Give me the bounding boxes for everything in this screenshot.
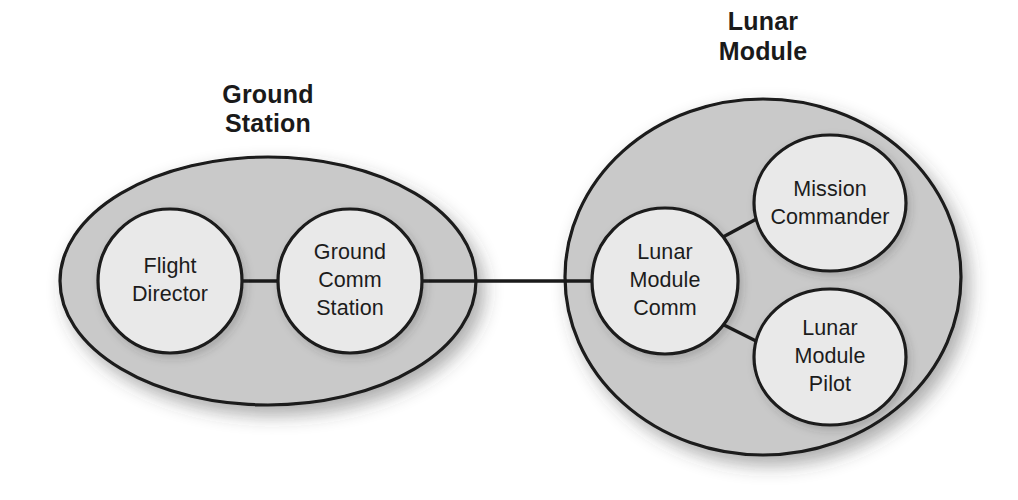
node-label-lunar-module-pilot-line2: Module — [794, 344, 865, 368]
group-title-ground-station-line2: Station — [225, 109, 311, 137]
node-label-lunar-module-comm-line1: Lunar — [637, 240, 693, 264]
group-title-ground-station: Ground Station — [222, 80, 313, 137]
node-label-ground-comm-station-line1: Ground — [314, 240, 386, 264]
node-label-mission-commander-line2: Commander — [770, 205, 889, 229]
node-label-lunar-module-comm-line3: Comm — [633, 296, 697, 320]
node-lunar-module-comm[interactable]: Lunar Module Comm — [592, 208, 738, 354]
node-label-ground-comm-station-line2: Comm — [318, 268, 382, 292]
group-title-ground-station-line1: Ground — [222, 80, 313, 108]
node-circle-mission-commander[interactable] — [754, 135, 906, 271]
diagram-canvas: Flight Director Ground Comm Station Luna… — [0, 0, 1018, 500]
node-label-mission-commander-line1: Mission — [793, 177, 867, 201]
group-title-lunar-module: Lunar Module — [719, 7, 808, 65]
node-flight-director[interactable]: Flight Director — [98, 209, 242, 353]
node-label-lunar-module-pilot-line3: Pilot — [809, 372, 851, 396]
communication-network-diagram: Flight Director Ground Comm Station Luna… — [0, 0, 1018, 500]
group-title-lunar-module-line1: Lunar — [728, 7, 799, 35]
node-ground-comm-station[interactable]: Ground Comm Station — [278, 209, 422, 353]
node-lunar-module-pilot[interactable]: Lunar Module Pilot — [754, 289, 906, 425]
node-label-flight-director-line2: Director — [132, 282, 208, 306]
node-label-ground-comm-station-line3: Station — [316, 296, 384, 320]
node-mission-commander[interactable]: Mission Commander — [754, 135, 906, 271]
node-label-lunar-module-comm-line2: Module — [629, 268, 700, 292]
node-label-lunar-module-pilot-line1: Lunar — [802, 316, 858, 340]
node-label-flight-director-line1: Flight — [143, 254, 196, 278]
group-title-lunar-module-line2: Module — [719, 37, 808, 65]
